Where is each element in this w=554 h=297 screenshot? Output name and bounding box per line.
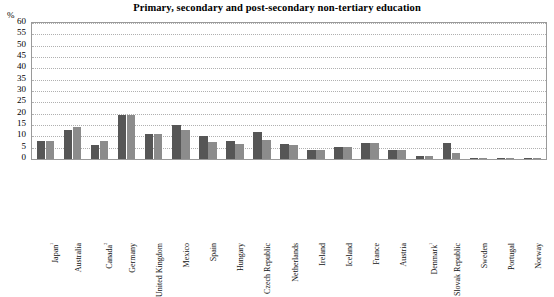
bar-series-1: [307, 150, 316, 159]
y-axis-tick-10: 10: [2, 130, 26, 139]
bar-series-1: [37, 141, 46, 159]
bar-series-2: [127, 115, 136, 159]
x-axis-label-unitedkingdom: United Kingdom: [156, 243, 164, 297]
bar-series-1: [118, 115, 127, 159]
bar-series-1: [416, 156, 425, 159]
x-axis-label-denmark: Denmark¹: [427, 243, 439, 275]
bar-series-1: [443, 143, 452, 159]
bar-series-2: [343, 147, 352, 159]
y-axis-tick-50: 50: [2, 40, 26, 49]
bar-series-1: [334, 147, 343, 159]
x-axis-label-norway: Norway: [535, 243, 543, 269]
x-axis-label-japan: Japan¹: [48, 243, 60, 263]
y-axis-tick-55: 55: [2, 28, 26, 37]
bar-group: [334, 23, 352, 159]
bar-series-2: [181, 130, 190, 159]
y-axis-tick-60: 60: [2, 17, 26, 26]
x-axis-label-slovakrepublic: Slovak Republic: [454, 243, 462, 296]
x-axis-label-austria: Austria: [400, 243, 408, 267]
bar-group: [470, 23, 488, 159]
bar-series-2: [73, 127, 82, 159]
bar-series-2: [479, 158, 488, 159]
y-axis-tick-20: 20: [2, 108, 26, 117]
x-axis-label-spain: Spain: [210, 243, 218, 261]
x-axis-label-czechrepublic: Czech Republic: [264, 243, 272, 294]
bar-series-1: [497, 158, 506, 159]
x-axis-label-mexico: Mexico: [183, 243, 191, 267]
x-axis-label-iceland: Iceland: [346, 243, 354, 267]
y-axis-tick-35: 35: [2, 74, 26, 83]
x-axis-label-france: France: [373, 243, 381, 265]
bar-series-2: [506, 158, 515, 159]
bar-series-2: [397, 150, 406, 159]
y-axis-tick-0: 0: [2, 153, 26, 162]
bar-series-2: [154, 134, 163, 159]
bar-series-1: [470, 158, 479, 159]
bar-series-2: [533, 158, 542, 159]
bar-group: [416, 23, 434, 159]
bar-series-2: [289, 145, 298, 159]
bar-series-1: [199, 136, 208, 159]
bar-series-2: [208, 142, 217, 159]
bar-series-1: [388, 150, 397, 159]
bar-series-1: [280, 144, 289, 159]
bar-group: [37, 23, 55, 159]
bar-series-2: [425, 156, 434, 159]
bar-group: [172, 23, 190, 159]
bar-group: [91, 23, 109, 159]
bar-series-1: [226, 141, 235, 159]
bar-series-1: [64, 130, 73, 159]
bar-group: [64, 23, 82, 159]
y-axis-tick-40: 40: [2, 62, 26, 71]
bar-series-2: [100, 141, 109, 159]
bar-group: [199, 23, 217, 159]
bar-group: [443, 23, 461, 159]
x-axis-label-australia: Australia: [75, 243, 83, 272]
bar-group: [497, 23, 515, 159]
bar-group: [118, 23, 136, 159]
plot-area: [31, 22, 547, 160]
bar-series-2: [262, 140, 271, 159]
bar-group: [253, 23, 271, 159]
x-axis-label-canada: Canada²: [102, 243, 114, 269]
bar-series-2: [370, 143, 379, 159]
x-axis-label-hungary: Hungary: [237, 243, 245, 271]
x-axis-label-ireland: Ireland: [319, 243, 327, 266]
bar-series-1: [253, 132, 262, 159]
y-axis-tick-45: 45: [2, 51, 26, 60]
bar-series-container: [32, 23, 546, 159]
bar-group: [145, 23, 163, 159]
bar-series-1: [524, 158, 533, 159]
x-axis-label-netherlands: Netherlands: [292, 243, 300, 282]
y-axis-tick-25: 25: [2, 96, 26, 105]
bar-series-2: [316, 150, 325, 159]
y-axis-tick-15: 15: [2, 119, 26, 128]
bar-group: [307, 23, 325, 159]
bar-group: [280, 23, 298, 159]
y-axis-tick-30: 30: [2, 85, 26, 94]
bar-series-2: [235, 144, 244, 159]
bar-series-1: [361, 143, 370, 159]
x-axis-label-sweden: Sweden: [481, 243, 489, 268]
x-axis-tick-labels: Japan¹AustraliaCanada²GermanyUnited King…: [31, 161, 547, 245]
gridline: [32, 159, 546, 160]
y-axis-tick-5: 5: [2, 142, 26, 151]
bar-series-1: [172, 125, 181, 159]
bar-group: [524, 23, 542, 159]
bar-series-1: [145, 134, 154, 159]
x-axis-label-germany: Germany: [129, 243, 137, 273]
chart-title: Primary, secondary and post-secondary no…: [0, 2, 554, 13]
bar-series-2: [46, 141, 55, 159]
bar-group: [388, 23, 406, 159]
bar-series-2: [452, 153, 461, 159]
x-axis-label-portugal: Portugal: [508, 243, 516, 270]
bar-group: [226, 23, 244, 159]
bar-group: [361, 23, 379, 159]
bar-series-1: [91, 145, 100, 159]
